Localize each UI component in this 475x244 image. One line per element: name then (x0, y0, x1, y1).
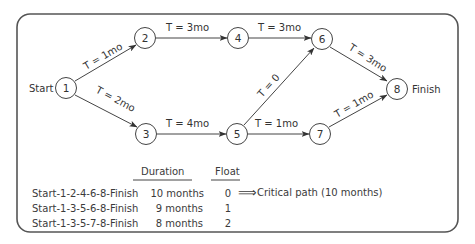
node-label-8: 8 (394, 83, 401, 95)
edge-label-2-4: T = 3mo (165, 22, 209, 33)
finish-label: Finish (412, 84, 440, 95)
node-label-6: 6 (319, 33, 326, 45)
edge-label-1-3: T = 2mo (93, 84, 137, 114)
edge-label-3-5: T = 4mo (165, 118, 209, 129)
edge-5-6 (244, 48, 314, 125)
row-float: 1 (225, 203, 231, 214)
edge-label-4-6: T = 3mo (257, 22, 301, 33)
critical-path-note: Critical path (10 months) (257, 187, 383, 198)
duration-header: Duration (141, 166, 184, 177)
table-row: Start-1-2-4-6-8-Finish 10 months 0 ⟹ Cri… (32, 185, 383, 200)
table-row: Start-1-3-5-7-8-Finish 8 months 2 (32, 218, 231, 229)
row-duration: 8 months (156, 218, 203, 229)
row-duration: 9 months (156, 203, 203, 214)
node-label-5: 5 (234, 128, 241, 140)
edge-label-5-7: T = 1mo (254, 118, 298, 129)
node-label-7: 7 (317, 128, 324, 140)
row-duration: 10 months (150, 188, 204, 199)
start-label: Start (29, 83, 54, 94)
float-header: Float (215, 166, 240, 177)
edge-label-1-2: T = 1mo (81, 41, 125, 73)
node-label-2: 2 (142, 32, 149, 44)
row-path: Start-1-3-5-7-8-Finish (32, 218, 138, 229)
row-float: 0 (225, 188, 231, 199)
edge-label-7-8: T = 1mo (332, 89, 376, 121)
row-path: Start-1-3-5-6-8-Finish (32, 203, 138, 214)
node-label-1: 1 (63, 82, 70, 94)
implies-arrow-icon: ⟹ (238, 185, 257, 200)
row-path: Start-1-2-4-6-8-Finish (32, 188, 138, 199)
node-label-3: 3 (143, 128, 150, 140)
row-float: 2 (225, 218, 231, 229)
node-label-4: 4 (235, 32, 242, 44)
table-row: Start-1-3-5-6-8-Finish 9 months 1 (32, 203, 231, 214)
edge-label-5-6: T = 0 (255, 72, 282, 100)
network-diagram: T = 1mo T = 2mo T = 3mo T = 4mo T = 3mo … (0, 0, 475, 244)
